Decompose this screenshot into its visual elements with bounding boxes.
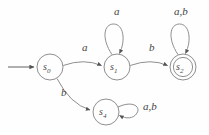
edge-label-s1-self: a: [114, 6, 120, 17]
edge-label-s0-s1: a: [82, 42, 88, 53]
automaton-diagram: s0 s1 s2 s4 a a b a,b b a,b: [0, 0, 209, 135]
transition-s1-s2: [130, 62, 167, 66]
edge-label-s1-s2: b: [149, 42, 155, 53]
state-label-s2: s2: [176, 62, 183, 75]
transition-s0-s1: [63, 62, 101, 66]
state-label-s0: s0: [43, 62, 50, 75]
edge-label-s0-s4: b: [61, 87, 67, 98]
edge-label-s2-self: a,b: [174, 6, 188, 17]
transition-s2-self: [171, 24, 189, 55]
edge-label-s4-self: a,b: [143, 101, 157, 112]
transition-s4-self: [118, 104, 138, 118]
state-label-s1: s1: [110, 62, 117, 75]
transition-s1-self: [105, 24, 123, 55]
state-label-s4: s4: [99, 107, 106, 120]
